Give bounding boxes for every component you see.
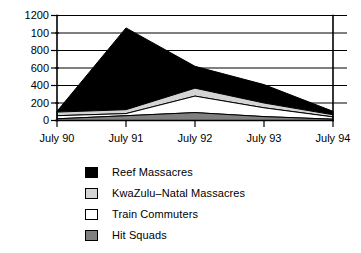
legend-swatch-reef-massacres xyxy=(85,167,98,178)
plot-area: 1200 100 800 600 400 200 0 xyxy=(0,0,361,160)
y-tick-label: 100 xyxy=(31,27,49,39)
chart-legend: Reef Massacres KwaZulu–Natal Massacres T… xyxy=(85,162,355,248)
legend-label-train-commuters: Train Commuters xyxy=(112,209,198,220)
y-tick-label: 800 xyxy=(31,44,49,56)
y-axis-tick-labels: 1200 100 800 600 400 200 0 xyxy=(25,9,49,126)
x-axis-ticks xyxy=(57,121,333,128)
series-areas xyxy=(57,28,333,121)
legend-item-train-commuters: Train Commuters xyxy=(85,204,355,225)
y-tick-label: 0 xyxy=(43,114,49,126)
legend-swatch-hit-squads xyxy=(85,230,98,241)
x-tick-label: July 92 xyxy=(178,132,213,144)
legend-item-reef-massacres: Reef Massacres xyxy=(85,162,355,183)
legend-label-hit-squads: Hit Squads xyxy=(112,230,167,241)
stacked-area-chart: 1200 100 800 600 400 200 0 xyxy=(0,0,361,253)
legend-swatch-train-commuters xyxy=(85,209,98,220)
y-tick-label: 1200 xyxy=(25,9,49,21)
legend-swatch-kwazulu-natal-massacres xyxy=(85,188,98,199)
chart-canvas: 1200 100 800 600 400 200 0 xyxy=(0,0,361,160)
x-tick-label: July 94 xyxy=(316,132,351,144)
legend-label-reef-massacres: Reef Massacres xyxy=(112,167,193,178)
y-tick-label: 400 xyxy=(31,79,49,91)
x-tick-label: July 93 xyxy=(247,132,282,144)
legend-item-kwazulu-natal-massacres: KwaZulu–Natal Massacres xyxy=(85,183,355,204)
y-tick-label: 600 xyxy=(31,62,49,74)
x-tick-label: July 91 xyxy=(109,132,144,144)
legend-label-kwazulu-natal-massacres: KwaZulu–Natal Massacres xyxy=(112,188,245,199)
y-tick-label: 200 xyxy=(31,97,49,109)
legend-item-hit-squads: Hit Squads xyxy=(85,225,355,246)
x-axis-tick-labels: July 90 July 91 July 92 July 93 July 94 xyxy=(40,132,351,144)
x-tick-label: July 90 xyxy=(40,132,75,144)
